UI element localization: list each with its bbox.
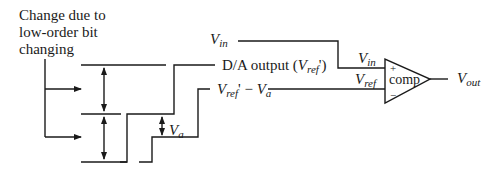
comp-vin-label: Vin	[358, 50, 376, 68]
annotation-text: Change due to low-order bit changing	[19, 7, 109, 57]
comp-minus-sign: −	[390, 89, 396, 101]
comparator: + − comp	[385, 59, 430, 103]
comp-vref-label: Vref	[355, 71, 378, 89]
da-output-label: D/A output (Vref')	[222, 57, 327, 75]
difference-label: Vref' − Va	[217, 81, 272, 99]
comp-label: comp	[389, 72, 420, 87]
va-label: Va	[169, 122, 184, 140]
annotation-pointer	[45, 59, 81, 137]
vin-label: Vin	[210, 31, 228, 49]
da-output-staircase	[120, 65, 215, 162]
diagram-canvas: Change due to low-order bit changing Va …	[0, 0, 495, 176]
vout-label: Vout	[457, 70, 481, 88]
